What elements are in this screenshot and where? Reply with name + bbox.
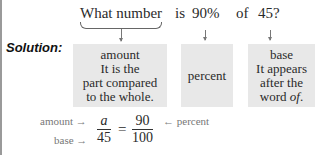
box-line: amount xyxy=(101,48,140,62)
box-line: to the whole. xyxy=(86,90,154,104)
box-line: after the xyxy=(260,76,303,90)
box-line: part compared xyxy=(83,76,158,90)
fraction-left: a 45 xyxy=(97,113,111,146)
solution-label: Solution: xyxy=(6,40,62,55)
equals-sign: = xyxy=(118,121,126,138)
underbrace xyxy=(80,22,162,29)
amount-box: amount It is the part compared to the wh… xyxy=(73,44,167,107)
box-line: It appears xyxy=(256,62,307,76)
base-label: base → xyxy=(54,134,87,146)
box-line: It is the xyxy=(101,62,140,76)
arrow-down-icon xyxy=(121,29,122,41)
question-base: 45? xyxy=(258,5,280,22)
question-of: of xyxy=(236,5,249,22)
numerator: 90 xyxy=(136,113,150,129)
box-line: word of. xyxy=(260,90,303,104)
percent-box: percent xyxy=(181,44,233,107)
arrow-down-icon xyxy=(205,30,206,40)
fraction-right: 90 100 xyxy=(132,113,153,146)
amount-label: amount → xyxy=(40,115,87,127)
percent-label: ← percent xyxy=(163,115,209,127)
question-phrase: What number xyxy=(80,5,162,22)
arrow-down-icon xyxy=(270,30,271,40)
question-is: is xyxy=(175,5,185,22)
box-line: base xyxy=(270,48,293,62)
denominator: 45 xyxy=(97,130,111,146)
box-line: percent xyxy=(188,69,226,83)
left-margin-rule xyxy=(0,0,2,155)
numerator: a xyxy=(101,113,108,129)
denominator: 100 xyxy=(132,130,153,146)
base-box: base It appears after the word of. xyxy=(248,44,315,107)
question-percent: 90% xyxy=(192,5,220,22)
